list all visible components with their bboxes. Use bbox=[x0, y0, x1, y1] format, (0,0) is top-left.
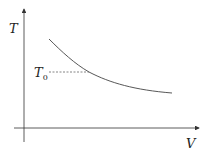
tv-diagram: T V T0 bbox=[0, 0, 211, 156]
t-v-curve bbox=[49, 39, 172, 93]
x-axis-label: V bbox=[186, 136, 197, 151]
t0-label-subscript: 0 bbox=[43, 73, 48, 82]
y-axis-label: T bbox=[9, 21, 19, 36]
t0-label: T0 bbox=[34, 65, 48, 82]
